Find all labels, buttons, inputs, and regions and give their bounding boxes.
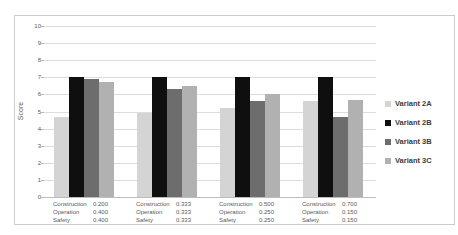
legend-item: Variant 2A	[385, 99, 432, 108]
legend-label: Variant 3C	[395, 156, 432, 165]
weight-name: Construction	[219, 200, 259, 208]
bar-variant-2a	[137, 113, 152, 197]
legend-swatch-icon	[385, 158, 391, 164]
weight-value: 0.250	[259, 216, 283, 224]
gridline	[44, 26, 376, 27]
bar-variant-3c	[182, 86, 197, 197]
bar-variant-2a	[220, 108, 235, 197]
category-weights-table: Construction0.500Operation0.250Safety0.2…	[219, 200, 283, 224]
y-axis-tick-label: 8	[27, 57, 41, 64]
bar-variant-3b	[333, 117, 348, 197]
weight-value: 0.150	[342, 208, 366, 216]
y-axis-tick-label: 10	[27, 23, 41, 30]
legend-swatch-icon	[385, 139, 391, 145]
weight-name: Safety	[136, 216, 176, 224]
legend-swatch-icon	[385, 101, 391, 107]
chart-canvas: Score 012345678910Construction0.200Opera…	[0, 0, 458, 235]
weight-value: 0.333	[176, 208, 200, 216]
bar-variant-3b	[167, 89, 182, 197]
legend-item: Variant 2B	[385, 118, 432, 127]
weight-name: Construction	[136, 200, 176, 208]
y-axis-tick	[41, 129, 44, 130]
legend-label: Variant 2A	[395, 99, 432, 108]
weight-value: 0.700	[342, 200, 366, 208]
chart-frame: Score 012345678910Construction0.200Opera…	[14, 15, 455, 225]
y-axis-tick-label: 5	[27, 109, 41, 116]
bar-variant-2a	[303, 101, 318, 197]
bar-variant-2b	[152, 77, 167, 197]
weight-name: Operation	[219, 208, 259, 216]
y-axis-tick-label: 3	[27, 143, 41, 150]
gridline	[44, 43, 376, 44]
weight-value: 0.200	[93, 200, 117, 208]
y-axis-tick	[41, 26, 44, 27]
y-axis-title: Score	[16, 98, 26, 124]
bar-variant-3c	[265, 94, 280, 197]
bar-variant-3c	[348, 100, 363, 197]
weight-value: 0.333	[176, 200, 200, 208]
y-axis-tick-label: 7	[27, 74, 41, 81]
weight-name: Safety	[219, 216, 259, 224]
bar-variant-2b	[235, 77, 250, 197]
category-weights-table: Construction0.200Operation0.400Safety0.4…	[53, 200, 117, 224]
legend-item: Variant 3B	[385, 137, 432, 146]
weight-value: 0.500	[259, 200, 283, 208]
bar-variant-3b	[250, 101, 265, 197]
y-axis-tick-label: 9	[27, 40, 41, 47]
y-axis-tick-label: 1	[27, 177, 41, 184]
legend-label: Variant 3B	[395, 137, 432, 146]
y-axis-tick	[41, 146, 44, 147]
bar-variant-2a	[54, 117, 69, 197]
category-weights-table: Construction0.333Operation0.333Safety0.3…	[136, 200, 200, 224]
x-axis-line	[44, 197, 376, 198]
y-axis-tick	[41, 180, 44, 181]
y-axis-tick	[41, 112, 44, 113]
weight-name: Operation	[136, 208, 176, 216]
weight-name: Construction	[53, 200, 93, 208]
weight-value: 0.250	[259, 208, 283, 216]
y-axis-tick-label: 6	[27, 91, 41, 98]
weight-value: 0.400	[93, 208, 117, 216]
weight-value: 0.150	[342, 216, 366, 224]
weight-name: Operation	[302, 208, 342, 216]
y-axis-tick-label: 4	[27, 126, 41, 133]
y-axis-tick	[41, 60, 44, 61]
legend-label: Variant 2B	[395, 118, 432, 127]
y-axis-tick	[41, 163, 44, 164]
y-axis-tick	[41, 43, 44, 44]
weight-name: Safety	[53, 216, 93, 224]
weight-value: 0.400	[93, 216, 117, 224]
legend: Variant 2AVariant 2BVariant 3BVariant 3C	[385, 99, 432, 165]
weight-name: Safety	[302, 216, 342, 224]
y-axis-tick-label: 2	[27, 160, 41, 167]
category-weights-table: Construction0.700Operation0.150Safety0.1…	[302, 200, 366, 224]
weight-value: 0.333	[176, 216, 200, 224]
bar-variant-3b	[84, 79, 99, 197]
gridline	[44, 60, 376, 61]
weight-name: Construction	[302, 200, 342, 208]
bar-variant-2b	[318, 77, 333, 197]
bar-variant-3c	[99, 82, 114, 197]
bar-variant-2b	[69, 77, 84, 197]
legend-swatch-icon	[385, 120, 391, 126]
y-axis-tick	[41, 94, 44, 95]
y-axis-tick-label: 0	[27, 194, 41, 201]
weight-name: Operation	[53, 208, 93, 216]
legend-item: Variant 3C	[385, 156, 432, 165]
y-axis-tick	[41, 77, 44, 78]
